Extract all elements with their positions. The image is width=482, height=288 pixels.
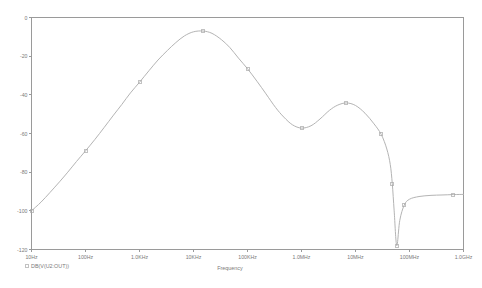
x-axis-ticks: 10Hz100Hz1.0KHz10KHz100KHz1.0MHz10MHz100…	[25, 250, 472, 260]
x-tick-label: 10Hz	[25, 254, 38, 260]
x-tick-label: 100KHz	[238, 254, 257, 260]
x-tick-label: 1.0MHz	[293, 254, 311, 260]
y-tick-label: -100	[17, 208, 27, 214]
x-tick-label: 100MHz	[400, 254, 420, 260]
x-tick-label: 100Hz	[78, 254, 93, 260]
x-tick-label: 10KHz	[186, 254, 202, 260]
frequency-response-plot: 0-20-40-60-80-100-120 10Hz100Hz1.0KHz10K…	[0, 0, 482, 288]
y-tick-label: -60	[20, 131, 28, 137]
x-axis-title: Frequency	[217, 265, 243, 271]
square-marker-icon	[26, 265, 29, 268]
chart-canvas: 0-20-40-60-80-100-120 10Hz100Hz1.0KHz10K…	[0, 0, 482, 288]
y-tick-label: -120	[17, 247, 27, 253]
trace-group	[30, 30, 464, 248]
y-tick-label: 0	[25, 15, 28, 21]
plot-frame	[32, 18, 464, 250]
trace-db-v-u2-out	[32, 31, 464, 246]
y-tick-label: -20	[20, 53, 28, 59]
legend: DB(V(U2:OUT))	[26, 263, 70, 269]
x-tick-label: 10MHz	[347, 254, 364, 260]
y-axis-ticks: 0-20-40-60-80-100-120	[17, 15, 31, 253]
legend-label-0[interactable]: DB(V(U2:OUT))	[31, 263, 69, 269]
y-tick-label: -80	[20, 169, 28, 175]
y-tick-label: -40	[20, 92, 28, 98]
x-tick-label: 1.0KHz	[131, 254, 148, 260]
x-tick-label: 1.0GHz	[455, 254, 473, 260]
